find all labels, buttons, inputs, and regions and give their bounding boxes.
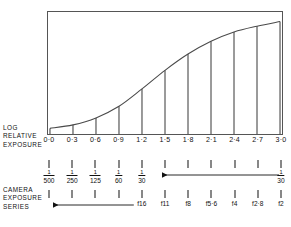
axis-tick-label-row: 0·00·30·60·91·21·51·82·12·42·73·0 — [47, 136, 283, 148]
shutter-speed-value: 1125 — [90, 170, 101, 184]
scale-tick — [49, 190, 50, 198]
camera-title-line-1: CAMERA — [3, 186, 42, 194]
axis-tick-label: 0·6 — [90, 136, 101, 144]
camera-exposure-series-label: CAMERA EXPOSURE SERIES — [3, 186, 42, 211]
axis-title-line-1: LOG — [3, 124, 42, 132]
aperture-scale: f16f11f8f5·6f4f2·8f2 — [47, 190, 283, 216]
axis-tick-label: 0·0 — [44, 136, 55, 144]
fraction-denominator: 30 — [277, 175, 284, 184]
aperture-value: f8 — [185, 200, 191, 207]
axis-tick-label: 2·4 — [229, 136, 240, 144]
aperture-value: f4 — [232, 200, 238, 207]
scale-tick — [95, 190, 96, 198]
scale-tick — [281, 190, 282, 198]
fraction-denominator: 30 — [138, 175, 145, 184]
scale-tick — [141, 160, 142, 168]
scale-tick — [72, 160, 73, 168]
axis-tick-label: 3·0 — [276, 136, 287, 144]
axis-title-line-2: RELATIVE — [3, 132, 42, 140]
scale-tick — [165, 160, 166, 168]
fraction-denominator: 500 — [43, 175, 54, 184]
plot-frame — [47, 11, 283, 135]
fraction-denominator: 60 — [115, 175, 122, 184]
scale-tick — [234, 160, 235, 168]
camera-title-line-2: EXPOSURE — [3, 194, 42, 202]
shutter-speed-value: 1250 — [67, 170, 78, 184]
scale-tick — [49, 160, 50, 168]
scale-tick — [95, 160, 96, 168]
axis-tick-label: 2·7 — [252, 136, 263, 144]
shutter-speed-scale: 150012501125160130130 — [47, 160, 283, 186]
scale-tick — [234, 190, 235, 198]
scale-tick — [118, 190, 119, 198]
scale-tick — [257, 160, 258, 168]
scale-tick — [188, 160, 189, 168]
axis-tick-label: 1·8 — [183, 136, 194, 144]
shutter-speed-value: 1500 — [43, 170, 54, 184]
aperture-value: f16 — [137, 200, 146, 207]
axis-tick-label: 0·3 — [67, 136, 78, 144]
aperture-value: f5·6 — [206, 200, 217, 207]
scale-tick — [281, 160, 282, 168]
scale-tick — [211, 190, 212, 198]
axis-tick-label: 2·1 — [206, 136, 217, 144]
exposure-step-lines — [50, 22, 280, 134]
aperture-value: f11 — [161, 200, 170, 207]
scale-tick — [257, 190, 258, 198]
scale-tick — [118, 160, 119, 168]
shutter-speed-value: 130 — [138, 170, 145, 184]
figure-root: 0·00·30·60·91·21·51·82·12·42·73·0 LOG RE… — [0, 0, 291, 227]
axis-tick-label: 1·5 — [160, 136, 171, 144]
characteristic-curve-svg — [48, 12, 282, 134]
aperture-value: f2 — [278, 200, 284, 207]
axis-tick-label: 0·9 — [113, 136, 124, 144]
shutter-speed-value: 160 — [115, 170, 122, 184]
scale-tick — [188, 190, 189, 198]
axis-title-line-3: EXPOSURE — [3, 141, 42, 149]
fraction-denominator: 250 — [67, 175, 78, 184]
scale-tick — [141, 190, 142, 198]
scale-tick — [211, 160, 212, 168]
camera-title-line-3: SERIES — [3, 203, 42, 211]
axis-tick-label: 1·2 — [136, 136, 147, 144]
aperture-value: f2·8 — [252, 200, 263, 207]
scale-tick — [165, 190, 166, 198]
scale-tick — [72, 190, 73, 198]
fraction-denominator: 125 — [90, 175, 101, 184]
log-relative-exposure-label: LOG RELATIVE EXPOSURE — [3, 124, 42, 149]
shutter-speed-value: 130 — [277, 170, 284, 184]
